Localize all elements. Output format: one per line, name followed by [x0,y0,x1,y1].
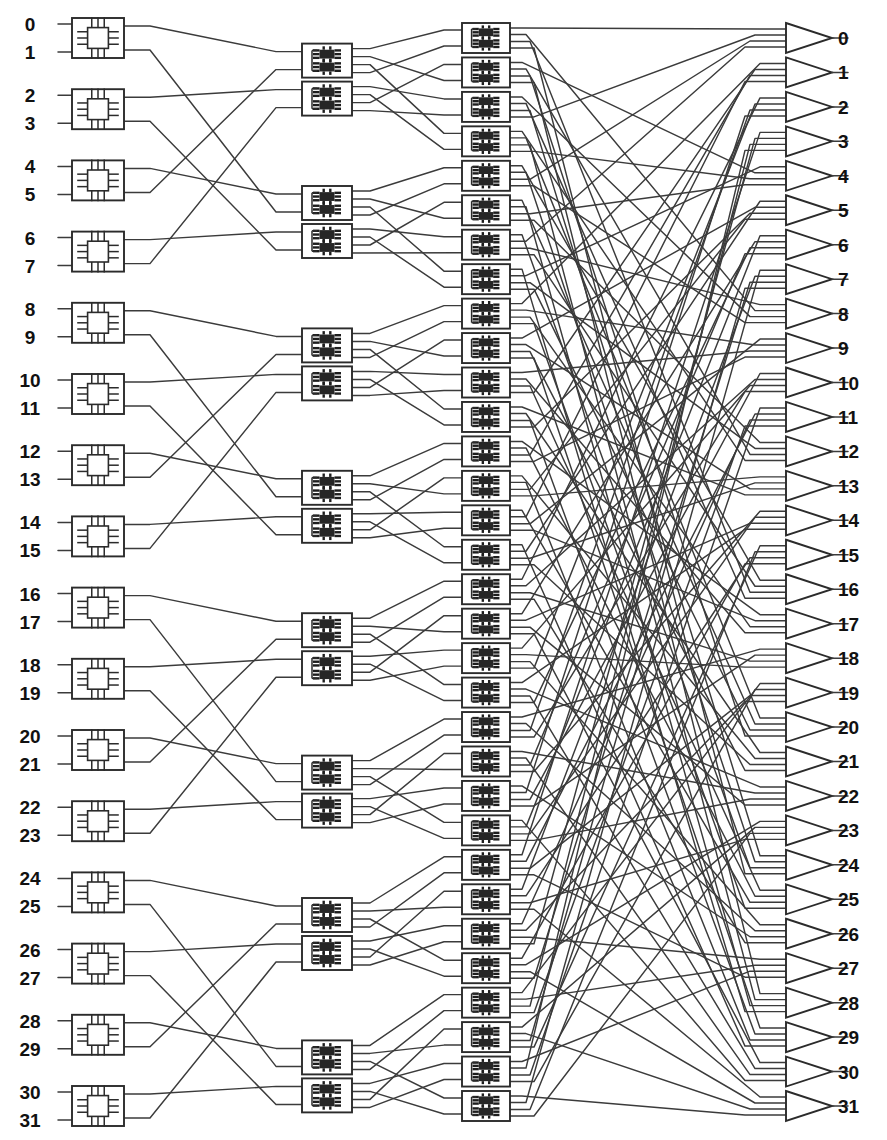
switch-box-outline [302,328,352,362]
stage1-switch-box[interactable] [72,658,124,700]
interconnect-wire [510,696,786,869]
stage3-switch-box[interactable] [462,23,510,53]
stage3-switch-box[interactable] [462,471,510,501]
chip-core [479,890,493,898]
input-label: 23 [19,825,40,846]
stage1-switch-box[interactable] [72,1014,124,1056]
input-label: 20 [19,726,40,747]
stage2-switch-box[interactable] [302,366,352,400]
stage1-switch-box[interactable] [72,17,124,59]
stage3-switch-box[interactable] [462,230,510,260]
stage3-switch-box[interactable] [462,919,510,949]
stage3-switch-box[interactable] [462,126,510,156]
stage3-switch-box[interactable] [462,746,510,776]
stage2-switch-box[interactable] [302,224,352,258]
stage3-switch-box[interactable] [462,402,510,432]
stage3-switch-box[interactable] [462,678,510,708]
chip-core [479,442,493,450]
stage3-switch-box[interactable] [462,92,510,122]
stage1-switch-box[interactable] [72,444,124,486]
stage3-switch-box[interactable] [462,609,510,639]
triangle-buffer-icon [786,126,832,156]
stage3-switch-box[interactable] [462,850,510,880]
stage1-switch-box[interactable] [72,872,124,914]
stage2-switch-box[interactable] [302,613,352,647]
input-label: 9 [25,327,36,348]
output-label: 8 [838,304,849,325]
output-labels: 0123456789101112131415161718192021222324… [838,28,860,1117]
stage2-switch-box[interactable] [302,756,352,790]
chip-core [479,281,493,289]
stage1-switch-box[interactable] [72,587,124,629]
interconnect-wire [124,924,302,1047]
input-label: 0 [25,14,36,35]
stage1-switch-box[interactable] [72,231,124,273]
stage3-switch-box[interactable] [462,264,510,294]
stage3-switch-box[interactable] [462,988,510,1018]
stage3-switch-box[interactable] [462,333,510,363]
chip-core [479,591,493,599]
stage2-switch-box[interactable] [302,509,352,543]
stage2-switch-box[interactable] [302,471,352,505]
stage1-switch-box[interactable] [72,516,124,558]
stage3-switch-box[interactable] [462,299,510,329]
stage3-switch-box[interactable] [462,884,510,914]
triangle-buffer-icon [786,368,832,398]
interconnect-wire [124,70,302,193]
stage3-switch-box[interactable] [462,1057,510,1087]
stage2-switch-box[interactable] [302,794,352,828]
stage2-switch-box[interactable] [302,1078,352,1112]
chip-core [479,545,493,553]
stage2-switch-box[interactable] [302,936,352,970]
stage3-switch-box[interactable] [462,643,510,673]
stage2-switch-box[interactable] [302,186,352,220]
stage3-switch-box[interactable] [462,505,510,535]
stage3-switch-box[interactable] [462,436,510,466]
stage1-switch-box[interactable] [72,943,124,985]
switch-box-outline [462,299,510,329]
stage1-switch-box[interactable] [72,1085,124,1127]
triangle-buffer-icon [786,919,832,949]
chip-body [88,1024,109,1045]
stage1-switch-box[interactable] [72,373,124,415]
stage3-switch-box[interactable] [462,781,510,811]
chip-body [88,241,109,262]
chip-core [479,683,493,691]
stage2-switch-box[interactable] [302,898,352,932]
chip-core [479,247,493,255]
stage2-switch-box[interactable] [302,1040,352,1074]
chip-core [479,63,493,71]
input-lines [58,24,72,1120]
stage3-switch-box[interactable] [462,57,510,87]
stage1-switch-box[interactable] [72,160,124,202]
stage2-switch-box[interactable] [302,651,352,685]
stage3-switch-box[interactable] [462,953,510,983]
stage3-switch-box[interactable] [462,574,510,604]
interconnect-wire [352,391,462,396]
stage3-switch-box[interactable] [462,161,510,191]
stage3-switch-box[interactable] [462,368,510,398]
triangle-buffer-icon [786,1022,832,1052]
stage1-switch-box[interactable] [72,302,124,344]
stage2-switch-box[interactable] [302,328,352,362]
chip-core [320,942,335,951]
stage3-switch-box[interactable] [462,195,510,225]
stage1-switch-box[interactable] [72,88,124,130]
stage3-switch-box[interactable] [462,540,510,570]
chip-core [479,407,493,415]
switch-box-outline [302,794,352,828]
switch-box-outline [462,92,510,122]
interconnect-wire [124,311,302,337]
stage3-switch-box[interactable] [462,1022,510,1052]
stage1-switch-box[interactable] [72,800,124,842]
input-label: 3 [25,113,36,134]
chip-body [88,99,109,120]
stage3-switch-box[interactable] [462,815,510,845]
stage2-switch-box[interactable] [302,44,352,78]
stage3-switch-box[interactable] [462,712,510,742]
chip-core [479,614,493,622]
stage3-switch-box[interactable] [462,1091,510,1121]
stage1-switch-box[interactable] [72,729,124,771]
chip-core [320,192,335,201]
stage2-switch-box[interactable] [302,82,352,116]
